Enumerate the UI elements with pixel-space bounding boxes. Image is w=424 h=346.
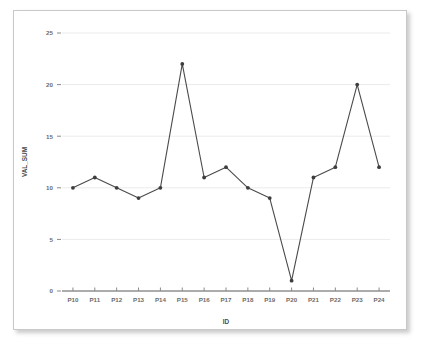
x-tick-label: P10	[67, 296, 79, 303]
x-tick-label: P11	[89, 296, 100, 303]
x-tick-label: P13	[133, 296, 145, 303]
data-point-marker[interactable]	[377, 165, 381, 169]
data-point-marker[interactable]	[159, 186, 163, 190]
series-line-val-sum	[73, 64, 379, 281]
y-tick-label: 25	[46, 29, 53, 36]
data-point-marker[interactable]	[180, 62, 184, 66]
x-tick-label: P24	[374, 296, 386, 303]
x-tick-label: P14	[155, 296, 167, 303]
chart-container: 0510152025P10P11P12P13P14P15P16P17P18P19…	[13, 10, 407, 330]
data-point-marker[interactable]	[137, 196, 141, 200]
data-point-marker[interactable]	[268, 196, 272, 200]
x-tick-label: P18	[242, 296, 254, 303]
x-tick-label: P16	[199, 296, 211, 303]
x-tick-label: P20	[286, 296, 298, 303]
x-tick-label: P19	[264, 296, 276, 303]
data-point-marker[interactable]	[246, 186, 250, 190]
line-chart: 0510152025P10P11P12P13P14P15P16P17P18P19…	[14, 11, 406, 329]
data-point-marker[interactable]	[290, 279, 294, 283]
x-tick-label: P23	[352, 296, 364, 303]
y-tick-label: 20	[46, 81, 53, 88]
data-point-marker[interactable]	[93, 176, 97, 180]
y-tick-label: 0	[50, 287, 54, 294]
data-point-marker[interactable]	[202, 176, 206, 180]
y-tick-label: 5	[50, 236, 54, 243]
data-point-marker[interactable]	[115, 186, 119, 190]
data-point-marker[interactable]	[312, 176, 316, 180]
x-tick-label: P17	[220, 296, 232, 303]
y-axis-title: VAL_SUM	[21, 147, 28, 177]
data-point-marker[interactable]	[71, 186, 75, 190]
x-tick-label: P12	[111, 296, 123, 303]
x-axis-title: ID	[223, 318, 230, 325]
y-tick-label: 10	[46, 184, 53, 191]
data-point-marker[interactable]	[333, 165, 337, 169]
x-tick-label: P21	[308, 296, 320, 303]
data-point-marker[interactable]	[224, 165, 228, 169]
x-tick-label: P22	[330, 296, 342, 303]
x-tick-label: P15	[177, 296, 189, 303]
data-point-marker[interactable]	[355, 83, 359, 87]
y-tick-label: 15	[46, 133, 53, 140]
